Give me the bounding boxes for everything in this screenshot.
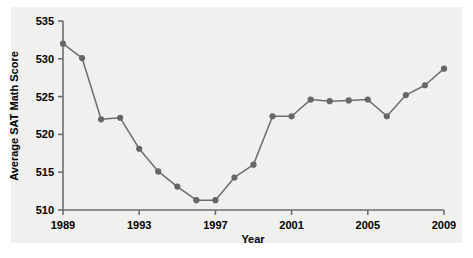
- data-point-marker: [117, 115, 123, 121]
- y-tick-label: 515: [36, 166, 54, 178]
- data-point-marker: [79, 55, 85, 61]
- data-point-marker: [384, 113, 390, 119]
- data-point-marker: [269, 113, 275, 119]
- x-tick-label: 1989: [51, 219, 75, 231]
- y-axis-group: 510515520525530535 Average SAT Math Scor…: [8, 15, 63, 216]
- data-series-group: [60, 41, 447, 204]
- y-tick-label: 525: [36, 91, 54, 103]
- x-tick-label: 2005: [356, 219, 380, 231]
- data-point-marker: [174, 183, 180, 189]
- x-tick-label: 2009: [432, 219, 456, 231]
- data-point-marker: [155, 168, 161, 174]
- y-tick-label: 520: [36, 128, 54, 140]
- data-point-marker: [136, 146, 142, 152]
- x-axis-title: Year: [241, 233, 265, 245]
- y-tick-label: 535: [36, 15, 54, 27]
- y-tick-labels: 510515520525530535: [36, 15, 54, 216]
- line-chart: 510515520525530535 Average SAT Math Scor…: [0, 0, 473, 258]
- data-point-marker: [346, 97, 352, 103]
- data-point-marker: [327, 98, 333, 104]
- data-point-marker: [193, 197, 199, 203]
- data-point-marker: [98, 116, 104, 122]
- data-point-marker: [250, 162, 256, 168]
- x-tick-label: 1993: [127, 219, 151, 231]
- data-point-marker: [60, 41, 66, 47]
- data-point-marker: [441, 66, 447, 72]
- series-markers: [60, 41, 447, 204]
- y-tick-label: 530: [36, 53, 54, 65]
- x-tick-label: 1997: [203, 219, 227, 231]
- data-point-marker: [422, 82, 428, 88]
- data-point-marker: [212, 197, 218, 203]
- data-point-marker: [403, 92, 409, 98]
- x-tick-label: 2001: [279, 219, 303, 231]
- data-point-marker: [308, 97, 314, 103]
- data-point-marker: [289, 113, 295, 119]
- x-axis-group: 198919931997200120052009 Year: [51, 210, 456, 245]
- data-point-marker: [365, 97, 371, 103]
- y-tick-label: 510: [36, 204, 54, 216]
- y-axis-title: Average SAT Math Score: [8, 51, 20, 181]
- x-tick-labels: 198919931997200120052009: [51, 219, 456, 231]
- series-line: [63, 44, 444, 200]
- chart-figure: 510515520525530535 Average SAT Math Scor…: [0, 0, 473, 258]
- data-point-marker: [231, 174, 237, 180]
